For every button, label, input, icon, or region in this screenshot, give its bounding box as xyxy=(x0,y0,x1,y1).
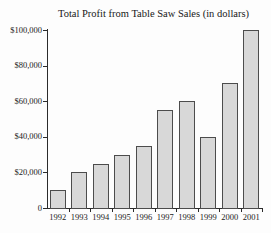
bar-1996 xyxy=(136,146,152,209)
x-tick-label-1993: 1993 xyxy=(68,212,90,222)
y-axis-tick xyxy=(43,137,47,138)
x-tick-label-1995: 1995 xyxy=(111,212,133,222)
profit-bar-chart: Total Profit from Table Saw Sales (in do… xyxy=(0,0,271,233)
y-tick-label: 0 xyxy=(38,204,42,213)
y-axis-tick xyxy=(43,172,47,173)
y-axis-tick xyxy=(43,66,47,67)
y-tick-label: $80,000 xyxy=(14,61,42,70)
x-tick-label-2001: 2001 xyxy=(240,212,262,222)
bar-1995 xyxy=(114,155,130,209)
bar-1998 xyxy=(179,101,195,209)
y-axis-tick xyxy=(43,208,47,209)
x-tick-label-1996: 1996 xyxy=(133,212,155,222)
y-axis-tick xyxy=(43,30,47,31)
x-tick-label-1992: 1992 xyxy=(47,212,69,222)
y-tick-label: $100,000 xyxy=(10,26,42,35)
y-axis-tick xyxy=(43,101,47,102)
bar-1993 xyxy=(71,172,87,209)
y-tick-label: $60,000 xyxy=(14,97,42,106)
x-tick-label-1994: 1994 xyxy=(90,212,112,222)
x-tick-label-1997: 1997 xyxy=(154,212,176,222)
bar-1997 xyxy=(157,110,173,209)
plot-area: 0$20,000$40,000$60,000$80,000$100,000 19… xyxy=(0,0,271,233)
x-tick-label-2000: 2000 xyxy=(219,212,241,222)
x-tick-label-1998: 1998 xyxy=(176,212,198,222)
y-tick-label: $40,000 xyxy=(14,132,42,141)
bar-1999 xyxy=(200,137,216,209)
y-tick-label: $20,000 xyxy=(14,168,42,177)
y-axis-line xyxy=(47,29,48,209)
bar-1992 xyxy=(50,190,66,209)
bar-2000 xyxy=(222,83,238,209)
bar-2001 xyxy=(243,30,259,209)
x-tick-label-1999: 1999 xyxy=(197,212,219,222)
bar-1994 xyxy=(93,164,109,210)
